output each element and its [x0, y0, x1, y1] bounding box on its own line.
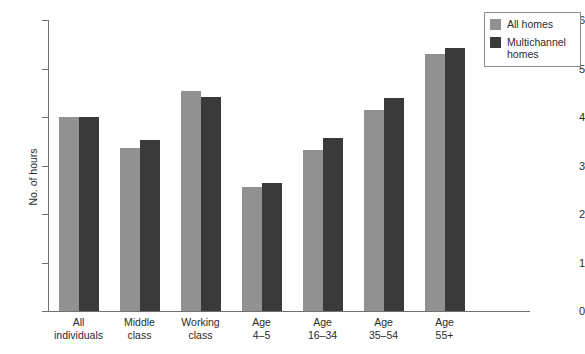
bar-group	[120, 20, 160, 311]
bar	[445, 48, 465, 311]
bar	[120, 148, 140, 311]
y-axis-tick-label: 4	[551, 112, 585, 123]
legend-item[interactable]: Multichannel homes	[490, 36, 576, 60]
bar-group	[59, 20, 99, 311]
y-axis-tick-label: 2	[551, 209, 585, 220]
x-axis-line	[48, 311, 530, 312]
y-axis-tick-label: 1	[551, 257, 585, 268]
bar	[201, 97, 221, 311]
bar-group	[181, 20, 221, 311]
bar-group	[425, 20, 465, 311]
y-axis-tick-label: 0	[551, 306, 585, 317]
bar	[323, 138, 343, 311]
x-axis-category-label: Working class	[170, 316, 231, 342]
bar	[181, 91, 201, 311]
y-axis-title: No. of hours	[27, 148, 39, 205]
bar	[425, 54, 445, 311]
legend-item-label: Multichannel homes	[507, 36, 576, 60]
x-axis-category-label: Age 4–5	[231, 316, 292, 342]
bar	[79, 117, 99, 311]
bar	[384, 98, 404, 311]
bar-chart-figure: No. of hours 0123456 All individualsMidd…	[0, 0, 585, 354]
x-axis-category-label: Age 55+	[414, 316, 475, 342]
y-axis-tick-label: 3	[551, 160, 585, 171]
bar-group	[303, 20, 343, 311]
legend-item[interactable]: All homes	[490, 18, 576, 30]
legend-item-label: All homes	[507, 18, 553, 30]
bar-group	[364, 20, 404, 311]
x-axis-category-label: Age 35–54	[353, 316, 414, 342]
bar	[140, 140, 160, 311]
x-axis-category-label: Age 16–34	[292, 316, 353, 342]
bar	[242, 187, 262, 311]
legend-swatch-icon	[490, 19, 501, 30]
bar	[262, 183, 282, 311]
plot-area	[48, 20, 475, 311]
x-axis-category-label: Middle class	[109, 316, 170, 342]
legend-swatch-icon	[490, 37, 501, 48]
bar	[364, 110, 384, 311]
x-axis-category-label: All individuals	[48, 316, 109, 342]
chart-legend: All homesMultichannel homes	[484, 12, 581, 67]
bar-group	[242, 20, 282, 311]
bar	[59, 117, 79, 311]
bar	[303, 150, 323, 311]
